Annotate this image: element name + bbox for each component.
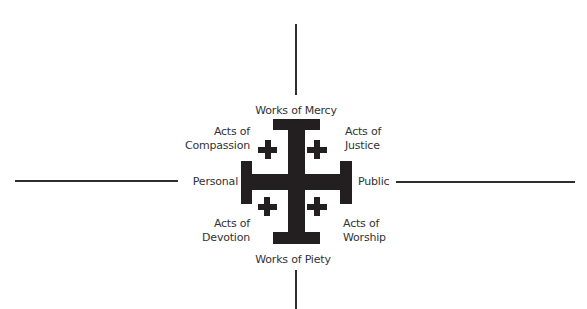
label-line: Justice (345, 139, 381, 153)
label-line: Acts of (343, 217, 386, 231)
label-acts-of-worship: Acts of Worship (343, 217, 386, 245)
label-public: Public (358, 175, 389, 189)
label-works-of-mercy: Works of Mercy (246, 104, 346, 118)
label-line: Compassion (150, 139, 250, 153)
label-line: Worship (343, 231, 386, 245)
label-acts-of-devotion: Acts of Devotion (150, 217, 250, 245)
label-personal: Personal (160, 175, 238, 189)
label-acts-of-justice: Acts of Justice (345, 125, 381, 153)
label-works-of-piety: Works of Piety (243, 253, 343, 267)
label-line: Acts of (150, 125, 250, 139)
label-line: Devotion (150, 231, 250, 245)
label-line: Acts of (150, 217, 250, 231)
label-line: Acts of (345, 125, 381, 139)
label-acts-of-compassion: Acts of Compassion (150, 125, 250, 153)
